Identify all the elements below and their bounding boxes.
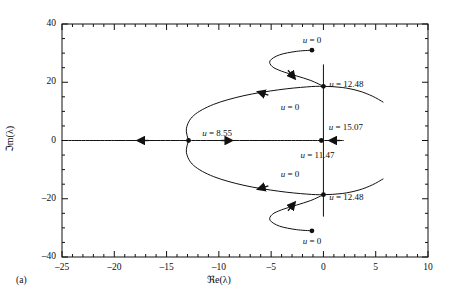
x-tick-label: –5 [266,263,276,273]
panel-label: (a) [16,276,27,286]
data-point-marker [310,48,315,53]
curve-annotation: u = 0 [281,103,300,112]
x-tick-label: 10 [423,263,433,273]
y-tick-label: 40 [30,19,56,29]
data-point-marker [186,138,191,143]
data-point-marker [319,138,324,143]
y-tick-label: 0 [30,136,56,146]
direction-arrow [261,186,269,188]
locus-curve [270,195,324,231]
curve-annotation: u = 0 [303,236,322,245]
y-axis-title: ℑm(λ) [5,109,15,169]
data-point-marker [310,228,315,233]
curve-annotation: u = 15.07 [329,123,363,132]
direction-arrow [261,93,269,95]
curve-annotation: u = 0 [281,169,300,178]
x-tick-label: 5 [373,263,378,273]
data-point-marker [321,192,326,197]
eigenvalue-locus-chart [0,0,454,300]
x-axis-title: ℜe(λ) [207,275,231,285]
curve-annotation: u = 8.55 [202,128,232,137]
curve-annotation: u = 0 [303,36,322,45]
x-tick-label: –20 [107,263,121,273]
curve-annotation: u = 12.48 [329,79,363,88]
curve-annotation: u = 12.48 [329,193,363,202]
y-tick-label: –20 [30,194,56,204]
x-tick-label: –25 [55,263,69,273]
y-tick-label: –40 [30,252,56,262]
x-tick-label: 0 [321,263,326,273]
x-tick-label: –15 [159,263,173,273]
figure-panel: –25–20–15–10–50510–40–2002040u = 0u = 12… [0,0,454,300]
x-tick-label: –10 [212,263,226,273]
y-tick-label: 20 [30,78,56,88]
locus-curve [270,50,324,86]
curve-annotation: u = 11.47 [300,151,334,160]
data-point-marker [321,84,326,89]
